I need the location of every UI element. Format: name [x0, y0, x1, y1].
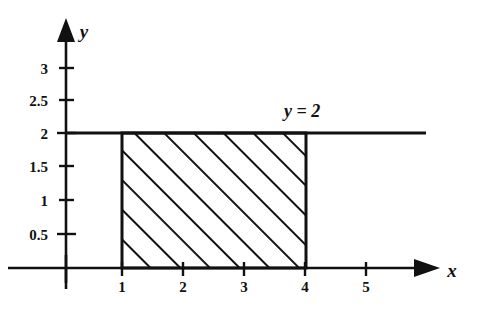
- y-tick-label-2: 2: [41, 126, 49, 142]
- curve-equation-label: y = 2: [282, 101, 320, 121]
- y-tick-label-1: 1: [41, 193, 49, 209]
- y-tick-label-3: 3: [41, 61, 49, 77]
- shaded-region-fill: [122, 133, 306, 268]
- math-figure: 3 2.5 2 1.5 1 0.5 1 2 3 4 5 y x y = 2: [0, 0, 482, 315]
- x-axis-label: x: [446, 260, 457, 281]
- shaded-region: [122, 133, 306, 268]
- x-tick-label-5: 5: [362, 279, 370, 295]
- x-tick-label-2: 2: [179, 279, 187, 295]
- y-tick-label-0-5: 0.5: [29, 227, 48, 243]
- x-tick-label-4: 4: [301, 279, 309, 295]
- y-tick-label-1-5: 1.5: [29, 159, 48, 175]
- y-tick-label-2-5: 2.5: [29, 93, 48, 109]
- y-axis-label: y: [78, 21, 89, 42]
- x-tick-label-3: 3: [240, 279, 248, 295]
- graph-canvas: 3 2.5 2 1.5 1 0.5 1 2 3 4 5 y x y = 2: [0, 0, 482, 315]
- x-tick-label-1: 1: [118, 279, 126, 295]
